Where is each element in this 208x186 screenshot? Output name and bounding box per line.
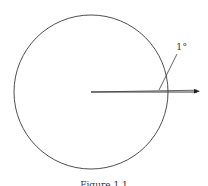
angle-label: 1° — [176, 41, 187, 52]
angle-diagram: 1° — [0, 0, 208, 186]
figure-caption: Figure 1.1 — [0, 180, 208, 186]
arrowhead-icon — [194, 89, 200, 93]
